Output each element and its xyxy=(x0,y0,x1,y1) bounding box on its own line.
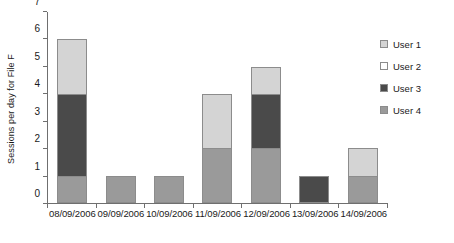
stacked-bar[interactable] xyxy=(251,67,281,203)
legend-label: User 3 xyxy=(393,83,421,94)
bar-segment[interactable] xyxy=(251,67,281,94)
y-tick-label: 2 xyxy=(34,133,40,144)
y-tick xyxy=(43,66,47,67)
stacked-bar[interactable] xyxy=(348,148,378,203)
chart-container: Sessions per day for File F 01234567 08/… xyxy=(0,0,454,243)
stacked-bar[interactable] xyxy=(154,176,184,203)
stacked-bar[interactable] xyxy=(57,39,87,203)
legend-label: User 4 xyxy=(393,105,421,116)
legend-swatch-icon xyxy=(380,106,388,114)
legend-swatch-icon xyxy=(380,40,388,48)
stacked-bar[interactable] xyxy=(299,176,329,203)
legend-item[interactable]: User 1 xyxy=(380,33,421,55)
y-tick xyxy=(43,148,47,149)
bar-segment[interactable] xyxy=(57,39,87,94)
chart-legend: User 1User 2User 3User 4 xyxy=(380,33,421,121)
plot-area: 01234567 xyxy=(47,12,387,204)
x-tick-label: 11/09/2006 xyxy=(194,208,243,219)
legend-label: User 1 xyxy=(393,39,421,50)
legend-swatch-icon xyxy=(380,62,388,70)
y-tick xyxy=(43,11,47,12)
legend-item[interactable]: User 3 xyxy=(380,77,421,99)
bar-segment[interactable] xyxy=(57,94,87,176)
y-tick-label: 0 xyxy=(34,188,40,199)
y-tick-label: 7 xyxy=(34,0,40,7)
y-tick xyxy=(43,38,47,39)
y-axis-title: Sessions per day for File F xyxy=(6,24,16,194)
bar-segment[interactable] xyxy=(299,176,329,203)
y-tick-label: 1 xyxy=(34,160,40,171)
x-tick-label: 09/09/2006 xyxy=(97,208,146,219)
x-tick-label: 08/09/2006 xyxy=(48,208,97,219)
y-tick-label: 3 xyxy=(34,105,40,116)
legend-label: User 2 xyxy=(393,61,421,72)
bar-segment[interactable] xyxy=(202,148,232,203)
y-tick xyxy=(43,93,47,94)
x-tick-label: 12/09/2006 xyxy=(242,208,291,219)
bar-segment[interactable] xyxy=(251,94,281,149)
x-tick-label: 10/09/2006 xyxy=(145,208,194,219)
y-tick xyxy=(43,176,47,177)
y-tick-label: 6 xyxy=(34,23,40,34)
x-tick-label: 13/09/2006 xyxy=(291,208,340,219)
y-tick-label: 5 xyxy=(34,50,40,61)
legend-swatch-icon xyxy=(380,84,388,92)
bar-segment[interactable] xyxy=(154,176,184,203)
bar-slot xyxy=(48,12,96,203)
stacked-bar[interactable] xyxy=(202,94,232,203)
bar-slot xyxy=(290,12,338,203)
bar-segment[interactable] xyxy=(348,148,378,175)
bar-segment[interactable] xyxy=(57,176,87,203)
x-tick-label: 14/09/2006 xyxy=(339,208,388,219)
x-axis-ticks xyxy=(47,203,387,204)
bar-group xyxy=(48,12,387,203)
bar-segment[interactable] xyxy=(348,176,378,203)
bar-segment[interactable] xyxy=(202,94,232,149)
bar-segment[interactable] xyxy=(106,176,136,203)
y-tick xyxy=(43,121,47,122)
y-tick-label: 4 xyxy=(34,78,40,89)
stacked-bar[interactable] xyxy=(106,176,136,203)
legend-item[interactable]: User 2 xyxy=(380,55,421,77)
bar-segment[interactable] xyxy=(251,148,281,203)
bar-slot xyxy=(145,12,193,203)
x-axis-labels: 08/09/200609/09/200610/09/200611/09/2006… xyxy=(48,208,388,219)
bar-slot xyxy=(193,12,241,203)
bar-slot xyxy=(242,12,290,203)
legend-item[interactable]: User 4 xyxy=(380,99,421,121)
bar-slot xyxy=(96,12,144,203)
